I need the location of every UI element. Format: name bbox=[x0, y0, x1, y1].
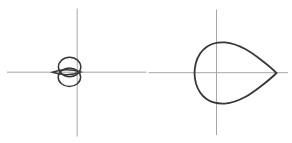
figure-canvas bbox=[0, 0, 292, 143]
right-plot bbox=[149, 10, 289, 136]
left-plot bbox=[7, 9, 147, 137]
plots-svg bbox=[0, 0, 292, 143]
